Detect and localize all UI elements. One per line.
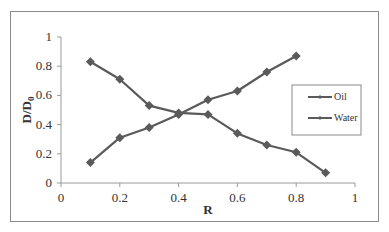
- diamond-marker-icon: [292, 51, 301, 60]
- x-axis-title: R: [203, 202, 213, 217]
- diamond-marker-icon: [204, 95, 213, 104]
- y-tick-label: 0: [46, 175, 53, 190]
- legend-label-oil: Oil: [334, 91, 347, 102]
- x-tick-label: 1: [352, 190, 359, 205]
- legend-label-water: Water: [334, 112, 358, 123]
- y-tick-label: 0.8: [36, 58, 52, 73]
- svg-text:D/D0: D/D0: [19, 96, 36, 123]
- y-axis-title-main: D/D: [19, 101, 34, 123]
- y-tick-label: 1: [46, 29, 53, 44]
- series-oil: [86, 51, 301, 167]
- y-axis-title: D/D0: [19, 96, 36, 123]
- y-tick-label: 0.2: [36, 146, 52, 161]
- diamond-marker-icon: [86, 57, 95, 66]
- x-tick-label: 0: [58, 190, 65, 205]
- y-tick-label: 0.4: [36, 117, 53, 132]
- diamond-marker-icon: [145, 123, 154, 132]
- diamond-marker-icon: [262, 141, 271, 150]
- y-tick-label: 0.6: [36, 87, 53, 102]
- x-tick-label: 0.4: [170, 190, 187, 205]
- x-tick-label: 0.2: [112, 190, 128, 205]
- x-tick-label: 0.8: [288, 190, 304, 205]
- line-chart: 00.20.40.60.8100.20.40.60.81 D/D0 R Oil …: [0, 0, 389, 232]
- x-tick-label: 0.6: [229, 190, 246, 205]
- legend: Oil Water: [292, 85, 361, 135]
- y-axis-title-subscript: 0: [26, 96, 36, 101]
